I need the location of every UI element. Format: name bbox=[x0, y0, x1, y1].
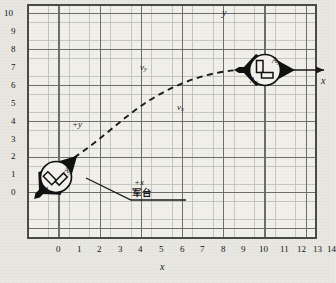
y-tick-0: 0 bbox=[11, 188, 16, 197]
plus-x-label: +x bbox=[134, 178, 144, 187]
y-tick-3: 3 bbox=[11, 135, 16, 144]
x-axis-arrow-label: x bbox=[321, 76, 325, 86]
y-tick-8: 8 bbox=[11, 45, 16, 54]
plus-y-label: +y bbox=[72, 120, 82, 129]
x-tick-3: 3 bbox=[118, 245, 123, 254]
x-tick-11: 11 bbox=[280, 245, 289, 254]
y-tick-6: 6 bbox=[11, 81, 16, 90]
craft-upper-right-antenna-x-label: Ax bbox=[250, 77, 258, 86]
craft-lower-left-antenna-y-label: Ay bbox=[64, 167, 72, 176]
x-tick-0: 0 bbox=[56, 245, 61, 254]
x-tick-7: 7 bbox=[200, 245, 205, 254]
y-tick-10: 10 bbox=[4, 9, 13, 18]
x-tick-8: 8 bbox=[221, 245, 226, 254]
x-tick-13: 13 bbox=[313, 245, 322, 254]
x-tick-6: 6 bbox=[180, 245, 185, 254]
velocity-y-label: vy bbox=[140, 63, 147, 73]
x-tick-4: 4 bbox=[138, 245, 143, 254]
x-tick-2: 2 bbox=[97, 245, 102, 254]
x-tick-9: 9 bbox=[241, 245, 246, 254]
craft-upper-right-antenna-y-label: Ay bbox=[272, 57, 280, 66]
x-tick-14: 14 bbox=[327, 245, 336, 254]
y-tick-2: 2 bbox=[11, 152, 16, 161]
x-tick-1: 1 bbox=[77, 245, 82, 254]
y-tick-7: 7 bbox=[11, 63, 16, 72]
y-tick-4: 4 bbox=[11, 117, 16, 126]
y-tick-1: 1 bbox=[11, 170, 16, 179]
velocity-x-label: vx bbox=[177, 103, 184, 113]
y-axis-label: y bbox=[222, 8, 226, 18]
craft-lower-left-antenna-x-label: Ax bbox=[44, 187, 52, 196]
x-tick-10: 10 bbox=[259, 245, 268, 254]
x-tick-12: 12 bbox=[297, 245, 306, 254]
platform-label: 军台 bbox=[132, 188, 152, 198]
x-axis-label: x bbox=[160, 262, 164, 272]
y-tick-9: 9 bbox=[11, 27, 16, 36]
y-tick-5: 5 bbox=[11, 99, 16, 108]
x-tick-5: 5 bbox=[159, 245, 164, 254]
